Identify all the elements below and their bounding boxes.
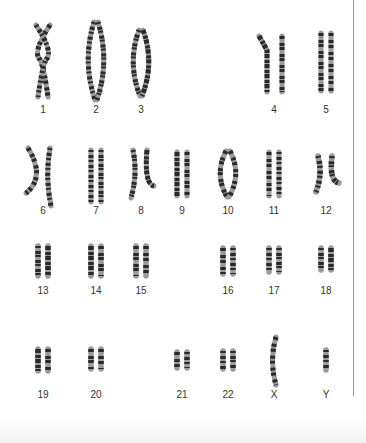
chromosome-label-12: 12 — [320, 205, 331, 216]
chromosome-label-18: 18 — [320, 285, 331, 296]
chromosome-pair-2 — [76, 17, 116, 105]
bottom-margin — [0, 418, 366, 443]
chromosome-pair-13 — [23, 241, 63, 281]
chromosome-pair-19 — [23, 344, 63, 376]
chromosome-pair-12 — [306, 151, 346, 197]
karyotype-figure: 12345678910111213141516171819202122XY — [0, 0, 366, 443]
chromosome-pair-8 — [121, 145, 161, 203]
chromosome-label-3: 3 — [138, 104, 144, 115]
chromosome-pair-21 — [162, 347, 202, 373]
chromosome-pair-14 — [76, 241, 116, 281]
chromosome-label-X: X — [271, 389, 278, 400]
chromosome-label-14: 14 — [90, 285, 101, 296]
chromosome-label-22: 22 — [222, 389, 233, 400]
chromosome-pair-10 — [208, 146, 248, 202]
chromosome-label-20: 20 — [90, 389, 101, 400]
chromosome-pair-20 — [76, 344, 116, 374]
chromosome-label-9: 9 — [179, 205, 185, 216]
chromosome-pair-22 — [208, 346, 248, 374]
chromosome-label-4: 4 — [271, 104, 277, 115]
chromosome-label-11: 11 — [269, 205, 279, 216]
chromosome-pair-6 — [23, 143, 63, 211]
chromosome-pair-15 — [121, 241, 161, 281]
chromosome-label-Y: Y — [323, 389, 330, 400]
chromosome-label-10: 10 — [222, 205, 233, 216]
chromosome-label-15: 15 — [135, 285, 146, 296]
chromosome-pair-5 — [306, 28, 346, 96]
chromosome-label-17: 17 — [268, 285, 279, 296]
chromosome-pair-16 — [208, 243, 248, 279]
chromosome-label-16: 16 — [222, 285, 233, 296]
chromosome-pair-9 — [162, 147, 202, 201]
chromosome-label-21: 21 — [176, 389, 187, 400]
chromosome-label-5: 5 — [323, 104, 329, 115]
chromosome-pair-X — [254, 332, 294, 390]
chromosome-pair-4 — [254, 31, 294, 97]
chromosome-label-2: 2 — [93, 104, 99, 115]
chromosome-pair-Y — [306, 345, 346, 375]
chromosome-pair-3 — [121, 25, 161, 101]
chromosome-pair-17 — [254, 243, 294, 277]
chromosome-label-1: 1 — [40, 104, 46, 115]
chromosome-label-7: 7 — [93, 205, 99, 216]
chromosome-label-19: 19 — [37, 389, 48, 400]
chromosome-label-13: 13 — [37, 285, 48, 296]
separator-line — [353, 0, 354, 396]
chromosome-pair-18 — [306, 243, 346, 275]
chromosome-pair-7 — [76, 145, 116, 207]
chromosome-label-6: 6 — [40, 205, 46, 216]
chromosome-label-8: 8 — [138, 205, 144, 216]
chromosome-pair-11 — [254, 147, 294, 201]
chromosome-pair-1 — [23, 20, 63, 102]
